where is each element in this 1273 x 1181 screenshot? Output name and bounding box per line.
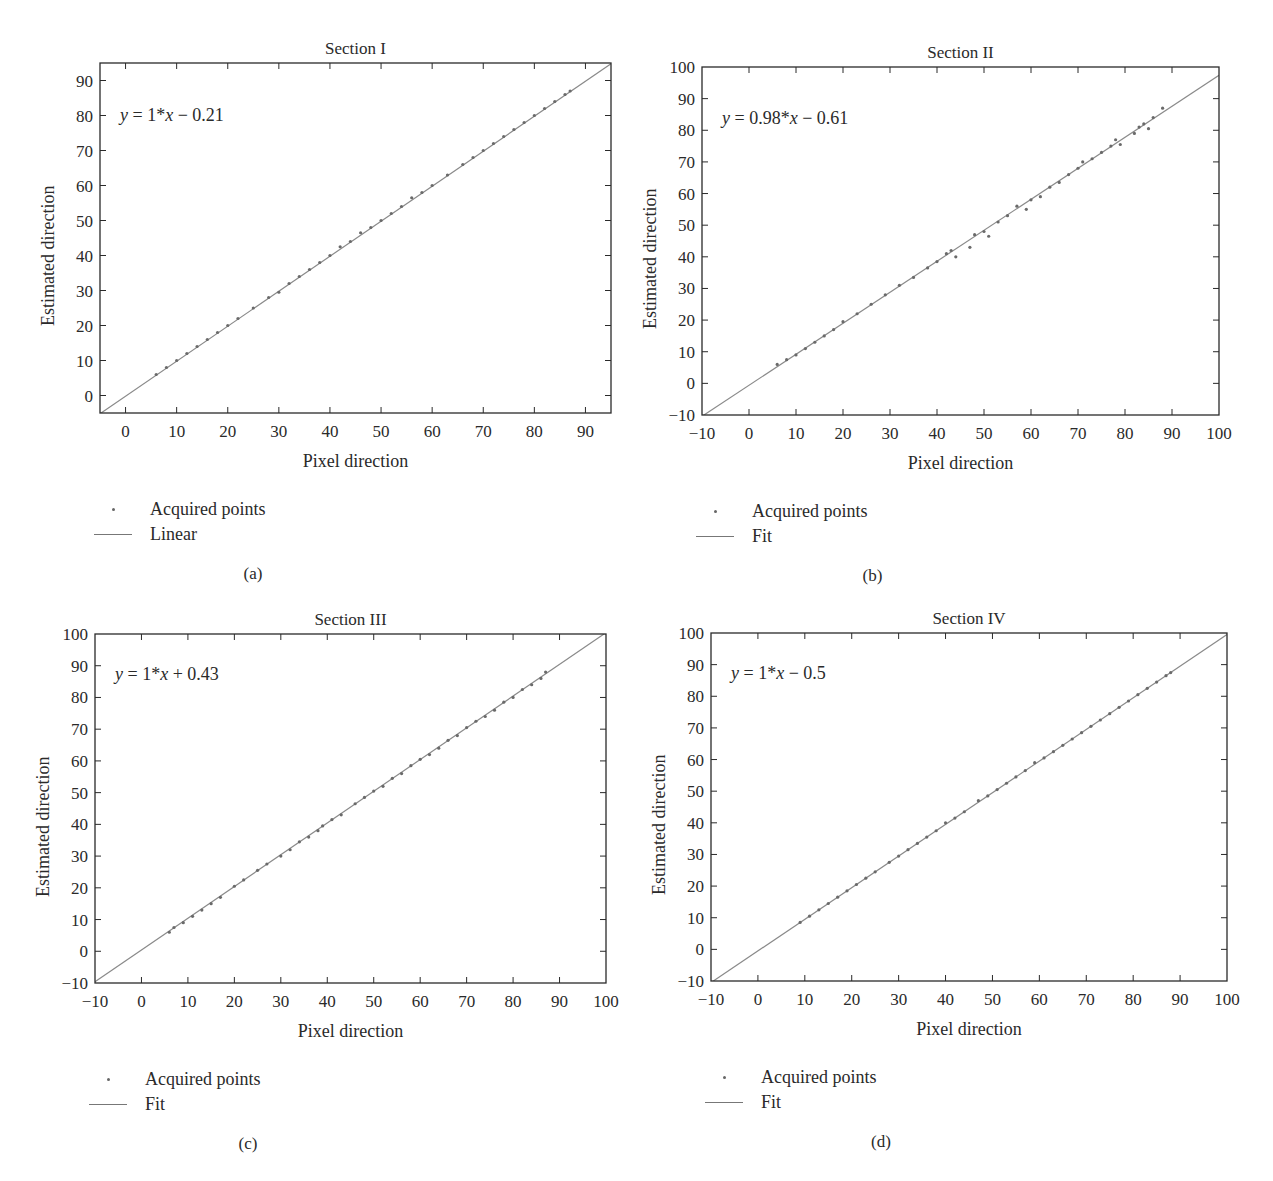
x-tick-label: 40: [937, 990, 954, 1009]
data-point: [874, 870, 877, 873]
legend-dot-icon: [703, 1076, 745, 1079]
data-point: [1014, 775, 1017, 778]
y-tick-label: 50: [687, 782, 704, 801]
legend-item: Acquired points: [703, 1065, 876, 1090]
data-point: [864, 877, 867, 880]
x-tick-label: −10: [698, 990, 725, 1009]
data-point: [845, 889, 848, 892]
x-tick-label: 10: [796, 990, 813, 1009]
legend-line-icon: [703, 1102, 745, 1103]
legend-label: Fit: [761, 1090, 781, 1115]
data-point: [935, 829, 938, 832]
y-tick-label: 90: [687, 656, 704, 675]
chart-legend: Acquired pointsFit: [703, 1065, 876, 1115]
data-point: [944, 821, 947, 824]
fit-equation: y = 1*x − 0.5: [731, 663, 826, 684]
data-point: [1071, 737, 1074, 740]
data-point: [1089, 725, 1092, 728]
plot-area: −100102030405060708090100−10010203040506…: [0, 0, 1273, 1181]
x-tick-label: 80: [1125, 990, 1142, 1009]
data-point: [888, 861, 891, 864]
x-tick-label: 100: [1214, 990, 1240, 1009]
data-point: [897, 854, 900, 857]
data-point: [836, 896, 839, 899]
chart-panel-d: −100102030405060708090100−10010203040506…: [0, 0, 1273, 1181]
data-point: [1155, 680, 1158, 683]
data-point: [953, 816, 956, 819]
chart-title: Section IV: [711, 609, 1227, 629]
data-point: [1024, 769, 1027, 772]
y-tick-label: 10: [687, 909, 704, 928]
data-point: [1033, 761, 1036, 764]
y-tick-label: 20: [687, 877, 704, 896]
data-point: [996, 788, 999, 791]
y-tick-label: 70: [687, 719, 704, 738]
x-tick-label: 20: [843, 990, 860, 1009]
legend-label: Acquired points: [761, 1065, 876, 1090]
y-tick-label: −10: [677, 972, 704, 991]
y-tick-label: 30: [687, 845, 704, 864]
data-point: [1108, 712, 1111, 715]
x-tick-label: 90: [1172, 990, 1189, 1009]
data-point: [1136, 693, 1139, 696]
data-point: [986, 794, 989, 797]
data-point: [1005, 782, 1008, 785]
data-point: [1169, 671, 1172, 674]
data-point: [1164, 674, 1167, 677]
data-point: [1099, 718, 1102, 721]
data-point: [1080, 731, 1083, 734]
y-tick-label: 0: [696, 940, 705, 959]
data-point: [1127, 699, 1130, 702]
data-point: [1061, 744, 1064, 747]
data-point: [1146, 687, 1149, 690]
legend-item: Fit: [703, 1090, 876, 1115]
data-point: [916, 842, 919, 845]
panel-tag: (d): [871, 1132, 891, 1152]
y-tick-label: 60: [687, 751, 704, 770]
fit-line: [711, 635, 1227, 983]
data-point: [906, 848, 909, 851]
data-point: [855, 883, 858, 886]
y-axis-label: Estimated direction: [649, 755, 670, 895]
x-tick-label: 30: [890, 990, 907, 1009]
data-point: [1052, 750, 1055, 753]
data-point: [1042, 756, 1045, 759]
data-point: [1118, 706, 1121, 709]
plot-frame: [711, 633, 1227, 981]
y-tick-label: 40: [687, 814, 704, 833]
y-tick-label: 80: [687, 687, 704, 706]
x-tick-label: 0: [754, 990, 763, 1009]
data-point: [808, 915, 811, 918]
data-point: [977, 799, 980, 802]
data-point: [963, 810, 966, 813]
data-point: [827, 902, 830, 905]
x-tick-label: 60: [1031, 990, 1048, 1009]
x-tick-label: 70: [1078, 990, 1095, 1009]
data-point: [817, 908, 820, 911]
data-point: [799, 921, 802, 924]
x-axis-label: Pixel direction: [711, 1019, 1227, 1040]
data-point: [925, 835, 928, 838]
x-tick-label: 50: [984, 990, 1001, 1009]
y-tick-label: 100: [679, 624, 705, 643]
